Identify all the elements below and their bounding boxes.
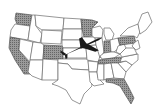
state-michigan [104,28,114,40]
state-wisconsin [92,26,103,38]
state-new-mexico [42,59,58,80]
state-south-dakota [62,29,82,40]
state-north-dakota [63,18,82,29]
state-wyoming [41,30,62,44]
state-arizona [28,60,43,80]
state-mississippi [97,64,104,80]
us-map-svg [0,0,164,110]
state-new-york [120,24,140,38]
state-new-england [138,12,152,34]
state-florida [106,79,134,104]
state-colorado [43,45,63,59]
state-montana [35,15,64,30]
state-arkansas [88,61,98,72]
us-map: United States map with shaded states and… [0,0,164,110]
